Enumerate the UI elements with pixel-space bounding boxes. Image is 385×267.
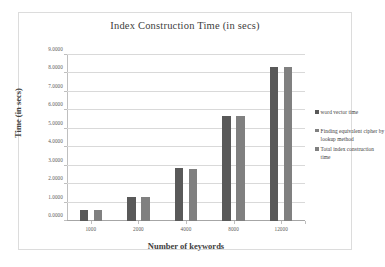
bar-group: 1000: [67, 55, 115, 221]
y-tick-label: 8.0000: [48, 64, 63, 70]
bar: [189, 169, 198, 221]
chart-title: Index Construction Time (in secs): [19, 20, 351, 31]
bar: [127, 197, 136, 221]
legend-entry[interactable]: Finding equivalent cipher by lookup meth…: [315, 128, 385, 144]
chart-legend: word vector timeFinding equivalent ciphe…: [315, 109, 385, 162]
x-tick-mark: [281, 221, 282, 224]
x-axis-title: Number of keywords: [67, 241, 305, 251]
legend-label: Total index construction time: [321, 146, 385, 162]
legend-swatch-icon: [315, 110, 319, 114]
legend-entry[interactable]: word vector time: [315, 109, 385, 117]
y-tick-label: 1.0000: [48, 194, 63, 200]
x-tick-label: 12000: [257, 226, 305, 232]
y-tick-label: 4.0000: [48, 138, 63, 144]
y-tick-label: 3.0000: [48, 157, 63, 163]
bar: [270, 67, 279, 221]
y-tick-label: 6.0000: [48, 101, 63, 107]
x-tick-mark: [305, 221, 306, 224]
bar: [222, 116, 231, 221]
x-tick-label: 4000: [162, 226, 210, 232]
x-tick-label: 8000: [210, 226, 258, 232]
legend-entry[interactable]: Total index construction time: [315, 146, 385, 162]
plot-area: 0.00001.00002.00003.00004.00005.00006.00…: [67, 55, 305, 221]
bar: [284, 67, 293, 221]
bar-group: 4000: [162, 55, 210, 221]
y-tick-label: 7.0000: [48, 83, 63, 89]
x-tick-mark: [186, 221, 187, 224]
bar: [175, 168, 184, 221]
bar: [141, 197, 150, 221]
bar-group: 12000: [257, 55, 305, 221]
y-axis-title: Time (in secs): [13, 88, 23, 138]
x-tick-label: 2000: [115, 226, 163, 232]
x-tick-label: 1000: [67, 226, 115, 232]
legend-label: Finding equivalent cipher by lookup meth…: [321, 128, 385, 144]
legend-label: word vector time: [321, 109, 385, 117]
y-tick-label: 5.0000: [48, 120, 63, 126]
chart-frame: Index Construction Time (in secs) 0.0000…: [18, 12, 352, 250]
bar: [94, 210, 103, 221]
bar: [80, 210, 89, 221]
legend-swatch-icon: [315, 147, 319, 151]
bar: [236, 116, 245, 221]
x-tick-mark: [138, 221, 139, 224]
x-tick-mark: [234, 221, 235, 224]
x-tick-mark: [91, 221, 92, 224]
bar-group: 8000: [210, 55, 258, 221]
legend-swatch-icon: [315, 129, 319, 133]
y-tick-label: 2.0000: [48, 175, 63, 181]
y-tick-label: 9.0000: [48, 46, 63, 52]
y-tick-label: 0.0000: [48, 212, 63, 218]
bar-group: 2000: [115, 55, 163, 221]
